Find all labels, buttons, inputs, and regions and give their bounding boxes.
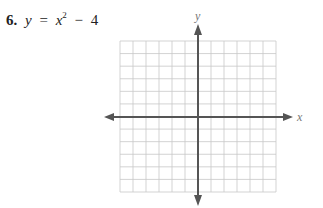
- y-axis: [194, 24, 202, 206]
- y-axis-up-arrow-icon: [194, 24, 202, 35]
- x-axis-right-arrow-icon: [283, 113, 293, 121]
- x-axis-label: x: [296, 110, 303, 124]
- coordinate-plane: y x: [0, 0, 323, 208]
- y-axis-label: y: [194, 9, 201, 23]
- y-axis-down-arrow-icon: [194, 195, 202, 206]
- x-axis-left-arrow-icon: [104, 113, 114, 121]
